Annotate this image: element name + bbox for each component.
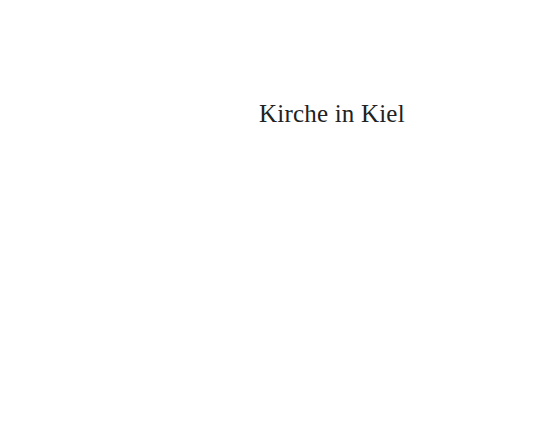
title-page: Kirche in Kiel (0, 0, 542, 444)
page-title: Kirche in Kiel (259, 99, 405, 129)
